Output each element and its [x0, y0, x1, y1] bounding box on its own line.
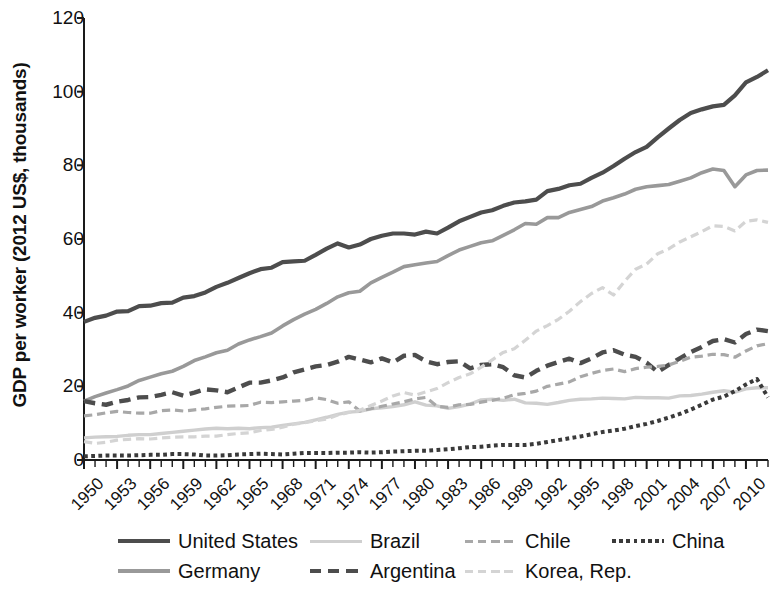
- legend-row-1: United StatesBrazilChileChina: [0, 526, 775, 556]
- legend-label: China: [672, 531, 724, 551]
- legend-swatch-brazil: [310, 540, 362, 543]
- legend-label: Korea, Rep.: [525, 561, 632, 581]
- legend-swatch-united-states: [118, 539, 170, 543]
- legend-item[interactable]: Korea, Rep.: [465, 556, 632, 586]
- legend-item[interactable]: Germany: [118, 556, 260, 586]
- legend-item[interactable]: China: [612, 526, 724, 556]
- legend-label: Germany: [178, 561, 260, 581]
- legend-item[interactable]: Brazil: [310, 526, 420, 556]
- legend-swatch-korea-rep: [465, 570, 517, 573]
- legend-item[interactable]: Argentina: [310, 556, 456, 586]
- legend-swatch-argentina: [310, 569, 362, 573]
- chart-container: GDP per worker (2012 US$, thousands) 020…: [0, 0, 775, 590]
- legend-swatch-chile: [465, 540, 517, 543]
- chart-legend: United StatesBrazilChileChina GermanyArg…: [0, 524, 775, 590]
- legend-item[interactable]: United States: [118, 526, 298, 556]
- legend-item[interactable]: Chile: [465, 526, 571, 556]
- legend-label: United States: [178, 531, 298, 551]
- legend-label: Chile: [525, 531, 571, 551]
- legend-swatch-germany: [118, 569, 170, 572]
- legend-swatch-china: [612, 539, 664, 543]
- legend-label: Argentina: [370, 561, 456, 581]
- legend-label: Brazil: [370, 531, 420, 551]
- x-axis-ticks: 1950195319561959196219651968197119741977…: [0, 0, 775, 530]
- legend-row-2: GermanyArgentinaKorea, Rep.: [0, 556, 775, 586]
